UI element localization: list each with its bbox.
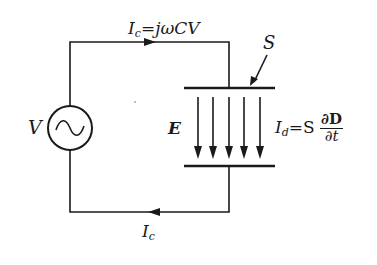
displacement-current-label: Id=S ∂D ∂t: [275, 112, 343, 145]
top-wire: [70, 42, 229, 106]
source-label: V: [28, 118, 42, 137]
bottom-current-arrow-icon: [148, 208, 160, 216]
field-label: E: [168, 120, 181, 137]
sine-wave-icon: [56, 121, 84, 136]
surface-label: S: [263, 34, 275, 52]
bottom-current-label: Ic: [142, 223, 155, 242]
bottom-wire: [70, 150, 229, 212]
derivative-fraction: ∂D ∂t: [320, 112, 343, 145]
top-current-arrow-icon: [144, 38, 156, 46]
top-current-label: Ic=jωCV: [128, 20, 200, 39]
surface-pointer: [254, 55, 267, 82]
field-lines: [198, 97, 260, 150]
